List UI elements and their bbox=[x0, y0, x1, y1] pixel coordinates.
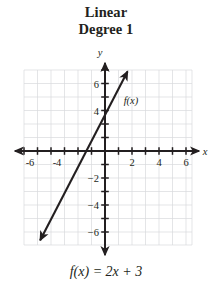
y-tick-label--4: −4 bbox=[88, 200, 100, 211]
x-tick-label--4: -4 bbox=[53, 157, 62, 168]
y-axis-label: y bbox=[97, 47, 103, 58]
x-axis-label: x bbox=[202, 146, 208, 157]
y-tick-labels: 6 4 −2 −4 −6 bbox=[88, 79, 100, 238]
x-tick-label--6: -6 bbox=[26, 157, 35, 168]
figure-title: Linear Degree 1 bbox=[0, 4, 212, 38]
title-line-2: Degree 1 bbox=[0, 21, 212, 38]
graph-area: -6 -4 2 4 6 6 4 −2 −4 −6 x y f(x) bbox=[0, 44, 212, 259]
x-tick-label-2: 2 bbox=[129, 157, 134, 168]
x-tick-label-6: 6 bbox=[183, 157, 188, 168]
equation-caption: f(x) = 2x + 3 bbox=[0, 263, 212, 280]
y-tick-label-6: 6 bbox=[94, 79, 99, 90]
title-line-1: Linear bbox=[0, 4, 212, 21]
x-tick-labels: -6 -4 2 4 6 bbox=[26, 157, 189, 168]
function-curve-label: f(x) bbox=[124, 95, 139, 107]
y-tick-label-4: 4 bbox=[94, 106, 100, 117]
equation-text: f(x) = 2x + 3 bbox=[0, 263, 212, 280]
y-tick-label--6: −6 bbox=[88, 227, 99, 238]
x-tick-label-4: 4 bbox=[156, 157, 162, 168]
figure-linear-degree-1: Linear Degree 1 bbox=[0, 0, 212, 290]
y-tick-label--2: −2 bbox=[88, 173, 99, 184]
coordinate-plane-svg: -6 -4 2 4 6 6 4 −2 −4 −6 x y f(x) bbox=[0, 44, 212, 259]
